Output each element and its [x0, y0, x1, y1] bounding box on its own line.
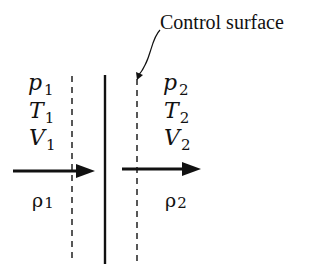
- T1-label: T1: [29, 98, 54, 127]
- left-state-labels: p1 T1 V1 ρ1: [28, 70, 55, 212]
- control-volume-diagram: Control surface p1 T1 V1 ρ1 p2 T2 V2 ρ2: [0, 0, 328, 279]
- T2-label: T2: [164, 98, 189, 127]
- V1-label: V1: [29, 125, 55, 154]
- rho2-label: ρ2: [165, 189, 187, 212]
- left-arrowhead-icon: [76, 164, 95, 178]
- p1-label: p1: [28, 70, 54, 99]
- V2-label: V2: [164, 125, 190, 154]
- control-surface-label: Control surface: [160, 11, 284, 33]
- right-state-labels: p2 T2 V2 ρ2: [163, 70, 190, 212]
- p2-label: p2: [163, 70, 189, 99]
- rho1-label: ρ1: [32, 189, 54, 212]
- right-arrowhead-icon: [182, 162, 201, 176]
- leader-line: [138, 30, 160, 76]
